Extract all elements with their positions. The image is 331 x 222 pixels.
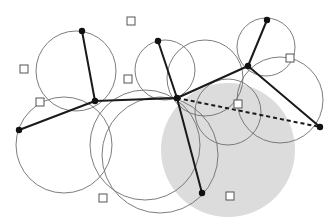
graph-edge (248, 20, 267, 66)
graph-node (174, 95, 180, 101)
square-marker (127, 17, 135, 25)
square-marker (226, 192, 234, 200)
square-marker (234, 100, 242, 108)
graph-edge (82, 31, 95, 101)
graph-node (317, 124, 323, 130)
graph-node (264, 17, 270, 23)
square-marker (36, 98, 44, 106)
empty-circle (135, 40, 195, 100)
graph-node (199, 190, 205, 196)
empty-circle (36, 31, 116, 111)
graph-node (16, 127, 22, 133)
graph-edge (95, 98, 177, 101)
graph-node (79, 28, 85, 34)
graph-node (245, 63, 251, 69)
geometric-graph-diagram (0, 0, 331, 222)
square-marker (286, 54, 294, 62)
square-marker (124, 75, 132, 83)
graph-node (92, 98, 98, 104)
graph-edge (19, 101, 95, 130)
graph-edge (158, 41, 177, 98)
empty-circle (16, 97, 112, 193)
square-marker (20, 65, 28, 73)
square-marker (99, 194, 107, 202)
graph-node (155, 38, 161, 44)
